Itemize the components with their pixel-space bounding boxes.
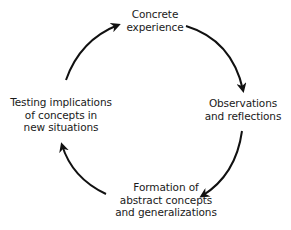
arrow-testing-to-experience: [66, 25, 118, 80]
node-label-line: Concrete: [105, 8, 205, 21]
node-label-line: Observations: [195, 97, 291, 110]
node-testing-implications: Testing implications of concepts in new …: [0, 96, 122, 134]
node-label-line: experience: [105, 21, 205, 34]
node-label-line: abstract concepts: [110, 194, 222, 207]
node-observations-reflections: Observations and reflections: [195, 97, 291, 122]
node-label-line: and generalizations: [110, 206, 222, 219]
node-label-line: and reflections: [195, 110, 291, 123]
node-concrete-experience: Concrete experience: [105, 8, 205, 33]
node-label-line: Testing implications: [0, 96, 122, 109]
arrow-experience-to-observations: [186, 26, 243, 90]
learning-cycle-diagram: Concrete experience Observations and ref…: [0, 0, 291, 230]
arrow-concepts-to-testing: [62, 145, 106, 194]
node-label-line: of concepts in: [0, 109, 122, 122]
node-label-line: new situations: [0, 121, 122, 134]
node-label-line: Formation of: [110, 181, 222, 194]
node-abstract-concepts: Formation of abstract concepts and gener…: [110, 181, 222, 219]
